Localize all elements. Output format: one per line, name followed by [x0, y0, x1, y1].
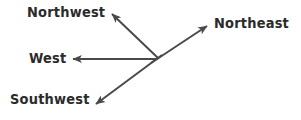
compass-arrow-diagram: Northwest Northeast West Southwest: [0, 0, 301, 120]
label-west: West: [29, 51, 66, 66]
label-northeast: Northeast: [214, 16, 289, 31]
southwest-arrow: [96, 55, 162, 104]
label-southwest: Southwest: [10, 92, 90, 107]
northwest-arrow: [112, 14, 158, 58]
label-northwest: Northwest: [27, 5, 105, 20]
